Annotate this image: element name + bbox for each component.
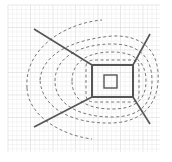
field-diagram [0,0,172,162]
dashed-arc [86,60,139,102]
field-line-lower-left [34,97,92,127]
dashed-arc [27,20,102,88]
grid-background [8,5,160,152]
